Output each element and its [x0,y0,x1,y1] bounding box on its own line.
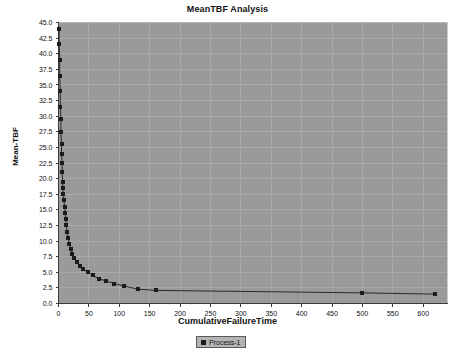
svg-text:350: 350 [265,310,277,317]
legend-marker-icon [201,340,206,345]
svg-text:27.5: 27.5 [39,128,53,135]
svg-text:0.0: 0.0 [43,300,53,307]
y-tick-labels: 0.02.55.07.510.012.515.017.520.022.525.0… [39,19,53,307]
svg-text:7.5: 7.5 [43,253,53,260]
svg-text:450: 450 [326,310,338,317]
svg-text:100: 100 [113,310,125,317]
svg-text:20.0: 20.0 [39,175,53,182]
svg-text:50: 50 [85,310,93,317]
svg-text:150: 150 [144,310,156,317]
svg-text:22.5: 22.5 [39,160,53,167]
svg-text:25.0: 25.0 [39,144,53,151]
svg-text:35.0: 35.0 [39,82,53,89]
svg-text:32.5: 32.5 [39,97,53,104]
svg-text:42.5: 42.5 [39,35,53,42]
svg-text:200: 200 [174,310,186,317]
svg-text:12.5: 12.5 [39,222,53,229]
svg-text:37.5: 37.5 [39,66,53,73]
legend-entry-label: Process-1 [209,339,241,346]
svg-text:40.0: 40.0 [39,50,53,57]
svg-text:300: 300 [235,310,247,317]
svg-text:10.0: 10.0 [39,238,53,245]
plot-area: 0.02.55.07.510.012.515.017.520.022.525.0… [0,0,455,359]
chart-legend[interactable]: Process-1 [196,336,246,348]
svg-text:2.5: 2.5 [43,284,53,291]
svg-text:550: 550 [387,310,399,317]
svg-text:400: 400 [296,310,308,317]
x-tick-labels: 050100150200250300350400450500550600 [57,310,430,317]
svg-text:45.0: 45.0 [39,19,53,26]
chart-container: MeanTBF Analysis Mean-TBF CumulativeFail… [0,0,455,359]
svg-text:0: 0 [57,310,61,317]
svg-text:17.5: 17.5 [39,191,53,198]
svg-text:15.0: 15.0 [39,206,53,213]
svg-text:30.0: 30.0 [39,113,53,120]
svg-text:500: 500 [357,310,369,317]
svg-text:5.0: 5.0 [43,269,53,276]
svg-text:600: 600 [417,310,429,317]
svg-text:250: 250 [205,310,217,317]
